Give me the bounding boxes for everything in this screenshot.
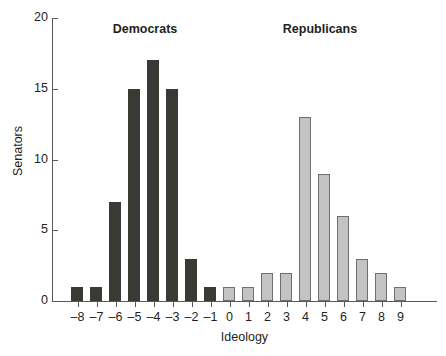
bar-slot [68, 18, 87, 301]
y-axis-title: Senators [11, 101, 25, 201]
x-axis-tick [325, 302, 326, 307]
bar-republican [223, 287, 235, 301]
bar-slot [125, 18, 144, 301]
x-axis-tick [249, 302, 250, 307]
x-axis-tick-label: 2 [258, 310, 277, 324]
x-axis-tick-label: –4 [144, 310, 163, 324]
x-axis-tick-label: 9 [391, 310, 410, 324]
bar-republican [337, 216, 349, 301]
x-axis-tick-label: 4 [296, 310, 315, 324]
bar-slot [201, 18, 220, 301]
x-axis-tick [192, 302, 193, 307]
x-axis-tick-label: 8 [372, 310, 391, 324]
x-axis-tick-label: 7 [353, 310, 372, 324]
x-axis-tick-label: –6 [106, 310, 125, 324]
x-axis-tick [173, 302, 174, 307]
x-axis-tick [116, 302, 117, 307]
x-axis-tick [306, 302, 307, 307]
x-axis-tick-label: 5 [315, 310, 334, 324]
x-axis-tick [363, 302, 364, 307]
x-axis-line [52, 301, 437, 302]
x-axis-tick [382, 302, 383, 307]
bar-democrat [90, 287, 102, 301]
x-axis-tick [344, 302, 345, 307]
x-axis-tick-label: –5 [125, 310, 144, 324]
bar-slot [315, 18, 334, 301]
bar-republican [299, 117, 311, 301]
plot-area [53, 18, 437, 301]
x-axis-tick [154, 302, 155, 307]
y-axis-tick-label-wrap: 5 [14, 223, 48, 236]
y-axis-tick [53, 301, 58, 302]
bar-republican [375, 273, 387, 301]
x-axis-tick [211, 302, 212, 307]
bar-slot [296, 18, 315, 301]
x-axis-tick [135, 302, 136, 307]
x-axis-tick-label: –1 [201, 310, 220, 324]
bar-chart: 05101520 Senators –8–7–6–5–4–3–2–1012345… [0, 0, 446, 356]
x-axis-tick [97, 302, 98, 307]
bar-republican [261, 273, 273, 301]
bar-republican [280, 273, 292, 301]
y-axis-tick-label-wrap: 20 [14, 11, 48, 24]
bar-slot [239, 18, 258, 301]
bar-slot [334, 18, 353, 301]
x-axis-title: Ideology [52, 330, 437, 344]
bar-democrat [109, 202, 121, 301]
bar-democrat [166, 89, 178, 301]
bar-slot [87, 18, 106, 301]
bar-democrat [128, 89, 140, 301]
bar-slot [220, 18, 239, 301]
x-axis-tick-label: 3 [277, 310, 296, 324]
x-axis-tick [401, 302, 402, 307]
x-axis-tick-label: 0 [220, 310, 239, 324]
bar-republican [242, 287, 254, 301]
x-axis-tick-label: –3 [163, 310, 182, 324]
x-axis-tick-label: 1 [239, 310, 258, 324]
bar-democrat [147, 60, 159, 301]
bar-slot [391, 18, 410, 301]
bar-slot [277, 18, 296, 301]
x-axis-tick-label: –8 [68, 310, 87, 324]
x-axis-tick-label: –2 [182, 310, 201, 324]
bar-republican [394, 287, 406, 301]
bar-slot [258, 18, 277, 301]
x-axis-tick [230, 302, 231, 307]
bar-slot [372, 18, 391, 301]
bar-democrat [71, 287, 83, 301]
bar-slot [163, 18, 182, 301]
x-axis-tick [287, 302, 288, 307]
bar-democrat [185, 259, 197, 301]
bar-slot [182, 18, 201, 301]
y-axis-tick-label: 0 [20, 294, 48, 307]
bar-slot [353, 18, 372, 301]
bar-slot [106, 18, 125, 301]
y-axis-tick-label-wrap: 15 [14, 82, 48, 95]
x-axis-tick-label: –7 [87, 310, 106, 324]
x-axis-tick [78, 302, 79, 307]
bar-republican [356, 259, 368, 301]
y-axis-tick-label: 5 [20, 223, 48, 236]
group-heading-democrats: Democrats [70, 22, 220, 36]
group-heading-republicans: Republicans [240, 22, 400, 36]
y-axis-tick-label: 20 [20, 11, 48, 24]
x-axis-tick [268, 302, 269, 307]
bar-republican [318, 174, 330, 301]
y-axis-tick-label-wrap: 0 [14, 294, 48, 307]
x-axis-tick-label: 6 [334, 310, 353, 324]
bar-slot [144, 18, 163, 301]
bar-democrat [204, 287, 216, 301]
y-axis-tick-label: 15 [20, 82, 48, 95]
